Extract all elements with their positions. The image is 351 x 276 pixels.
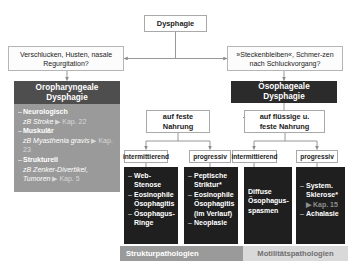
- dysphagia-flowchart: Dysphagie Verschlucken, Husten, nasale R…: [0, 0, 351, 276]
- banner-esophageal-dysphagia[interactable]: Ösophageale Dysphagie: [231, 81, 337, 103]
- node-liquid-and-solid-food[interactable]: auf flüssige u. feste Nahrung: [244, 110, 325, 133]
- item-text: System. Sklerose*: [306, 181, 342, 200]
- cause-item: – Strukturell: [18, 155, 116, 165]
- node-course-structural-progressive[interactable]: progressiv: [189, 150, 231, 163]
- list-item: – System. Sklerose*: [300, 181, 342, 200]
- item-note: (im Verlauf): [188, 209, 235, 218]
- symptom-left-text: Verschlucken, Husten, nasale Regurgitati…: [12, 50, 120, 68]
- list-item: – Web-Stenose: [128, 171, 175, 190]
- cause-detail-line: zB Zenker-Divertikel, Tumoren ▶ Kap. 5: [18, 165, 116, 184]
- list-item: – Peptische Striktur*: [188, 171, 235, 190]
- node-solid-food[interactable]: auf feste Nahrung: [146, 110, 210, 133]
- item-text: Neoplasie: [194, 218, 235, 227]
- panel-oropharyngeal-causes: – Neurologisch zB Stroke ▶ Kap. 22 – Mus…: [14, 104, 120, 192]
- list-item: Diffuse Ösophagus-spasmen: [248, 187, 289, 215]
- chapter-ref[interactable]: ▶ Kap. 22: [55, 118, 86, 125]
- banner-oropharyngeal-dysphagia[interactable]: Oropharyngeale Dysphagie: [14, 81, 120, 104]
- panel-motility-intermittent: Diffuse Ösophagus-spasmen: [244, 167, 292, 244]
- band-structural-pathologies: Strukturpathologien: [120, 246, 243, 261]
- chapter-ref[interactable]: ▶ Kap. 15: [300, 200, 342, 209]
- cause-item: – Neurologisch: [18, 107, 116, 117]
- list-item: – Achalasie: [300, 209, 342, 218]
- cause-detail-line: zB Stroke ▶ Kap. 22: [18, 117, 116, 127]
- item-text: Eosinophile Ösophagitis: [194, 190, 235, 209]
- list-item: – Ösophagus-Ringe: [128, 209, 175, 228]
- panel-motility-progressive: – System. Sklerose* ▶ Kap. 15 – Achalasi…: [296, 167, 345, 244]
- band-motility-pathologies: Motilitätspathologien: [243, 246, 348, 261]
- item-text: Peptische Striktur*: [194, 171, 235, 190]
- list-item: – Neoplasie: [188, 218, 235, 227]
- cause-heading: Neurologisch: [23, 107, 116, 117]
- item-text: Ösophagus-Ringe: [134, 209, 175, 228]
- list-item: – Eosinophile Ösophagitis: [128, 190, 175, 209]
- item-text: Web-Stenose: [134, 171, 175, 190]
- cause-item: – Muskulär: [18, 126, 116, 136]
- cause-heading: Strukturell: [23, 155, 116, 165]
- item-text: Eosinophile Ösophagitis: [134, 190, 175, 209]
- item-text: Diffuse Ösophagus-spasmen: [248, 187, 289, 215]
- panel-structural-intermittent: – Web-Stenose – Eosinophile Ösophagitis …: [124, 167, 178, 244]
- cause-heading: Muskulär: [23, 126, 116, 136]
- panel-structural-progressive: – Peptische Striktur* – Eosinophile Ösop…: [184, 167, 238, 244]
- node-root-dysphagie[interactable]: Dysphagie: [144, 15, 207, 32]
- chapter-ref[interactable]: ▶ Kap. 5: [52, 175, 79, 182]
- cause-detail: zB Stroke: [23, 118, 53, 125]
- symptom-right-text: »Steckenbleiben«, Schmer-zen nach Schluc…: [231, 50, 339, 68]
- item-text: Achalasie: [306, 209, 342, 218]
- node-symptom-left[interactable]: Verschlucken, Husten, nasale Regurgitati…: [8, 46, 124, 71]
- list-item: – Eosinophile Ösophagitis: [188, 190, 235, 209]
- node-symptom-right[interactable]: »Steckenbleiben«, Schmer-zen nach Schluc…: [227, 46, 343, 71]
- cause-detail: zB Myasthenia gravis: [23, 137, 90, 144]
- cause-detail-line: zB Myasthenia gravis ▶ Kap. 23: [18, 136, 116, 155]
- node-course-structural-intermittent[interactable]: intermittierend: [124, 150, 168, 163]
- node-course-motility-intermittent[interactable]: intermittierend: [232, 150, 277, 163]
- node-course-motility-progressive[interactable]: progressiv: [296, 150, 338, 163]
